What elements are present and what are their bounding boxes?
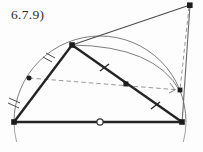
- dashed-chord: [29, 78, 180, 90]
- point-base-right: [179, 119, 185, 125]
- point-apex: [69, 42, 75, 48]
- point-top-right: [187, 2, 193, 8]
- right-angle-marker: [169, 83, 175, 93]
- tick-arc-upper-left: [43, 53, 55, 62]
- semicircle-tail-right: [183, 122, 186, 142]
- point-base-left: [11, 119, 17, 125]
- point-midpoint-hypotenuse: [123, 81, 128, 86]
- point-foot-right: [178, 88, 183, 93]
- tick-arc-lower-left: [8, 98, 20, 108]
- apex-to-topright-line: [72, 5, 190, 45]
- dashed-drop-line: [180, 7, 189, 90]
- semicircle-tail-left: [14, 122, 17, 142]
- point-center-open-circle: [97, 119, 103, 125]
- point-on-arc-left: [27, 76, 32, 81]
- figure-canvas: [0, 0, 203, 152]
- geometry-figure: 6.7.9): [0, 0, 203, 152]
